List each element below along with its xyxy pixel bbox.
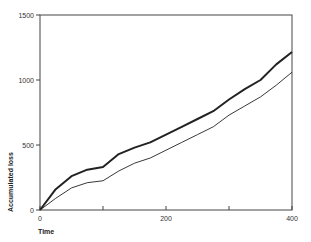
y-tick-label: 500 <box>22 142 34 149</box>
x-tick-label: 400 <box>286 215 298 222</box>
y-tick-label: 0 <box>30 207 34 214</box>
x-tick-label: 0 <box>38 215 42 222</box>
series-line <box>40 52 292 210</box>
data-lines <box>40 52 292 210</box>
y-tick-label: 1500 <box>18 12 34 19</box>
y-tick-label: 1000 <box>18 77 34 84</box>
y-axis-label: Accumulated loss <box>7 152 14 212</box>
plot-frame <box>40 15 292 210</box>
x-axis-label: Time <box>38 228 54 235</box>
series-line <box>40 72 292 210</box>
line-chart: 0500100015000200400 Accumulated loss Tim… <box>0 0 311 242</box>
axis-ticks: 0500100015000200400 <box>18 12 298 223</box>
x-tick-label: 200 <box>160 215 172 222</box>
